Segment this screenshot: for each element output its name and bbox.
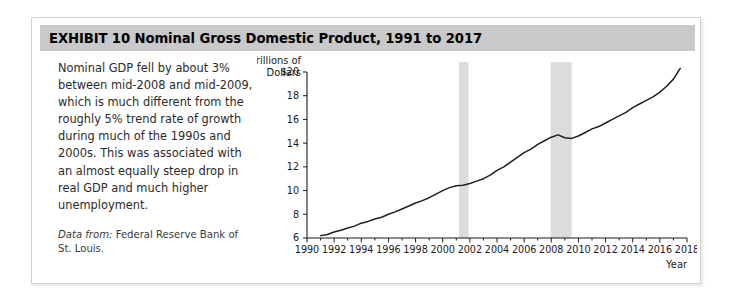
- source-label: Data from:: [58, 229, 112, 240]
- x-tick-label: 1998: [403, 244, 427, 255]
- x-tick-label: 1992: [322, 244, 346, 255]
- x-tick-label: 1990: [295, 244, 319, 255]
- caption-column: Nominal GDP fell by about 3% between mid…: [58, 60, 254, 257]
- y-axis-caption-line1: Trillions of: [257, 56, 302, 66]
- caption-source: Data from: Federal Reserve Bank of St. L…: [58, 228, 254, 257]
- x-tick-label: 2016: [648, 244, 672, 255]
- caption-body-text: Nominal GDP fell by about 3% between mid…: [58, 60, 254, 214]
- y-tick-label: 14: [287, 138, 299, 149]
- y-tick-label: 10: [287, 185, 299, 196]
- x-tick-label: 1994: [349, 244, 373, 255]
- x-axis-caption: Year: [665, 259, 688, 270]
- y-axis-group: $20181614121086: [281, 66, 307, 243]
- recession-band: [551, 62, 572, 238]
- chart-svg: $20181614121086 199019921994199619982000…: [257, 56, 697, 281]
- gdp-series-line: [321, 68, 681, 235]
- y-axis-caption-line2: Dollars: [267, 67, 301, 78]
- x-tick-label: 2002: [458, 244, 482, 255]
- x-tick-label: 2004: [485, 244, 509, 255]
- recession-bands: [459, 62, 572, 238]
- y-ticks: $20181614121086: [281, 66, 307, 243]
- exhibit-frame: EXHIBIT 10 Nominal Gross Domestic Produc…: [31, 17, 701, 284]
- x-tick-label: 2018: [675, 244, 697, 255]
- x-tick-label: 2000: [431, 244, 455, 255]
- exhibit-header-bar: EXHIBIT 10 Nominal Gross Domestic Produc…: [40, 25, 695, 51]
- x-tick-label: 2006: [512, 244, 536, 255]
- gdp-line-chart: $20181614121086 199019921994199619982000…: [257, 56, 697, 281]
- x-axis-group: 1990199219941996199820002002200420062008…: [295, 238, 697, 255]
- exhibit-title: EXHIBIT 10 Nominal Gross Domestic Produc…: [49, 31, 482, 46]
- x-tick-label: 2014: [621, 244, 645, 255]
- x-tick-label: 2008: [539, 244, 563, 255]
- x-tick-label: 2010: [566, 244, 590, 255]
- y-tick-label: 6: [293, 232, 299, 243]
- y-tick-label: 16: [287, 114, 299, 125]
- x-tick-label: 1996: [376, 244, 400, 255]
- y-tick-label: 18: [287, 90, 299, 101]
- x-ticks: 1990199219941996199820002002200420062008…: [295, 238, 697, 255]
- y-tick-label: 12: [287, 161, 299, 172]
- x-tick-label: 2012: [593, 244, 617, 255]
- y-tick-label: 8: [293, 209, 299, 220]
- y-axis-caption: Trillions of Dollars: [257, 56, 302, 78]
- recession-band: [459, 62, 469, 238]
